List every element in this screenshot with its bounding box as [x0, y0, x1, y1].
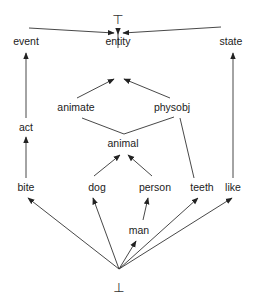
- type-hierarchy-diagram: ⊤ event entity state animate physobj act…: [0, 0, 258, 306]
- edge-state-top: [123, 27, 221, 33]
- node-bite: bite: [18, 181, 35, 193]
- node-dog: dog: [88, 181, 106, 193]
- edge-physobj-entity: [124, 79, 170, 98]
- node-entity: entity: [105, 35, 131, 47]
- node-person: person: [139, 181, 171, 193]
- node-animate: animate: [57, 101, 95, 113]
- node-physobj: physobj: [154, 101, 190, 113]
- edge-bottom-man: [119, 241, 136, 269]
- edge-event-top: [29, 28, 114, 33]
- node-man: man: [129, 224, 150, 236]
- node-state: state: [220, 35, 243, 47]
- node-animal: animal: [108, 137, 139, 149]
- edge-bottom-bite: [28, 198, 119, 269]
- node-like: like: [225, 181, 241, 193]
- node-teeth: teeth: [190, 181, 214, 193]
- edge-animate-entity: [77, 79, 114, 98]
- edge-animal-animate-physobj: [82, 117, 174, 134]
- edge-person-animal: [128, 155, 152, 176]
- edge-dog-animal: [94, 155, 120, 176]
- edge-teeth-physobj: [180, 118, 194, 178]
- top-symbol: ⊤: [112, 12, 123, 27]
- bottom-symbol: ⊥: [113, 280, 124, 295]
- node-act: act: [19, 121, 33, 133]
- node-event: event: [13, 35, 39, 47]
- edge-man-person: [143, 198, 148, 220]
